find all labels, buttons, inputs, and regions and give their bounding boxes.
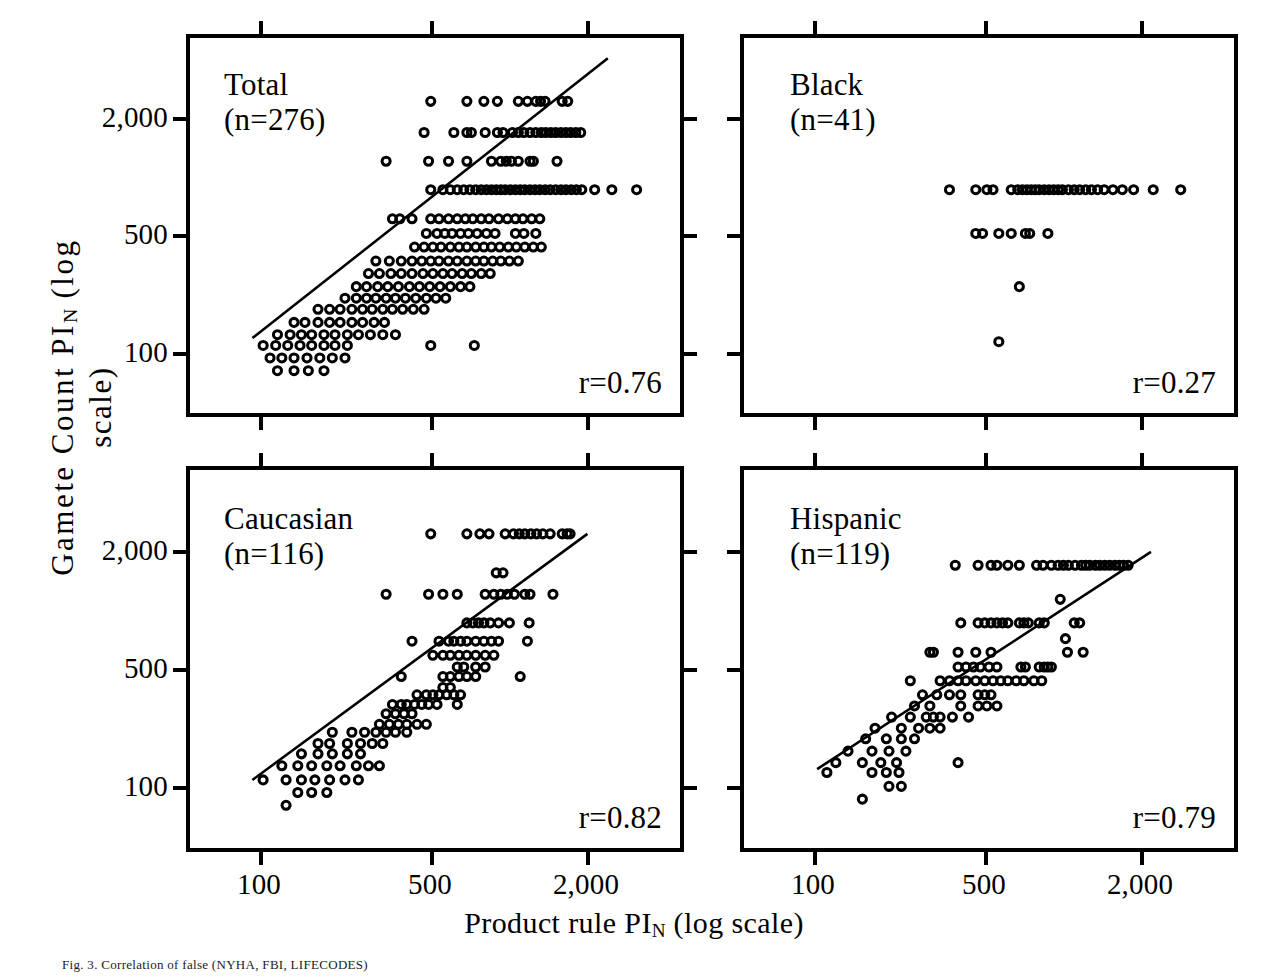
- data-point: [320, 341, 328, 349]
- data-point: [1004, 561, 1012, 569]
- data-point: [1177, 186, 1185, 194]
- data-point: [391, 710, 399, 718]
- data-point: [1118, 186, 1126, 194]
- data-point: [532, 229, 540, 237]
- data-point: [408, 215, 416, 223]
- data-point: [408, 270, 416, 278]
- data-point: [987, 691, 995, 699]
- y-tick-500: [173, 668, 190, 672]
- data-point: [399, 305, 407, 313]
- data-point: [435, 257, 443, 265]
- data-point: [463, 97, 471, 105]
- data-point: [363, 294, 371, 302]
- y-tick-500: [727, 668, 744, 672]
- y-axis-title: Gamete Count PIN (log scale): [45, 97, 119, 717]
- y-tick-right-100: [680, 786, 697, 790]
- data-point: [463, 651, 471, 659]
- data-point: [457, 283, 465, 291]
- data-point: [1015, 561, 1023, 569]
- data-point: [375, 270, 383, 278]
- data-point: [514, 157, 522, 165]
- data-point: [326, 776, 334, 784]
- data-point: [341, 354, 349, 362]
- data-point: [1063, 648, 1071, 656]
- x-tick-top-2000: [586, 21, 590, 38]
- data-point: [987, 648, 995, 656]
- data-point: [294, 788, 302, 796]
- data-point: [472, 663, 480, 671]
- data-point: [418, 257, 426, 265]
- x-tick-100: [813, 848, 817, 865]
- data-point: [473, 229, 481, 237]
- x-tick-top-500: [430, 453, 434, 470]
- data-point: [343, 739, 351, 747]
- data-point: [463, 257, 471, 265]
- data-point: [482, 229, 490, 237]
- data-point: [379, 331, 387, 339]
- data-point: [481, 651, 489, 659]
- scatter-plot-black: [744, 38, 1234, 413]
- data-point: [259, 341, 267, 349]
- x-tick-top-500: [984, 453, 988, 470]
- data-point: [1020, 677, 1028, 685]
- data-points: [823, 561, 1132, 803]
- data-point: [348, 728, 356, 736]
- data-point: [425, 700, 433, 708]
- data-point: [343, 341, 351, 349]
- data-point: [897, 735, 905, 743]
- data-point: [412, 294, 420, 302]
- data-point: [511, 229, 519, 237]
- data-point: [463, 243, 471, 251]
- data-point: [382, 157, 390, 165]
- data-point: [308, 341, 316, 349]
- x-tick-label-500: 500: [962, 868, 1006, 901]
- data-point: [1130, 186, 1138, 194]
- data-point: [364, 762, 372, 770]
- data-point: [426, 283, 434, 291]
- x-tick-label-100: 100: [237, 868, 281, 901]
- data-point: [382, 728, 390, 736]
- data-point: [453, 257, 461, 265]
- x-tick-top-500: [984, 21, 988, 38]
- data-point: [282, 776, 290, 784]
- x-tick-label-100: 100: [791, 868, 835, 901]
- panel-black: Black (n=41) r=0.27: [740, 34, 1238, 417]
- data-point: [1109, 186, 1117, 194]
- data-point: [485, 530, 493, 538]
- data-point: [882, 735, 890, 743]
- data-point: [965, 713, 973, 721]
- x-tick-top-100: [259, 21, 263, 38]
- data-point: [450, 128, 458, 136]
- x-tick-500: [430, 848, 434, 865]
- data-point: [633, 186, 641, 194]
- data-point: [446, 283, 454, 291]
- y-tick-right-100: [680, 352, 697, 356]
- data-point: [481, 590, 489, 598]
- data-point: [422, 229, 430, 237]
- data-point: [993, 663, 1001, 671]
- data-point: [1149, 186, 1157, 194]
- data-point: [446, 673, 454, 681]
- data-point: [308, 788, 316, 796]
- data-point: [957, 702, 965, 710]
- data-point: [823, 769, 831, 777]
- data-point: [523, 637, 531, 645]
- data-point: [448, 270, 456, 278]
- data-point: [1039, 561, 1047, 569]
- data-point: [352, 762, 360, 770]
- data-point: [537, 243, 545, 251]
- data-point: [348, 305, 356, 313]
- data-point: [405, 283, 413, 291]
- data-point: [954, 759, 962, 767]
- data-point: [429, 270, 437, 278]
- x-axis-subscript: N: [652, 920, 666, 941]
- x-tick-top-2000: [1140, 21, 1144, 38]
- data-point: [974, 702, 982, 710]
- x-tick-100: [813, 413, 817, 430]
- data-point: [510, 590, 518, 598]
- data-point: [902, 747, 910, 755]
- data-point: [303, 354, 311, 362]
- data-point: [413, 691, 421, 699]
- data-point: [448, 229, 456, 237]
- data-point: [871, 724, 879, 732]
